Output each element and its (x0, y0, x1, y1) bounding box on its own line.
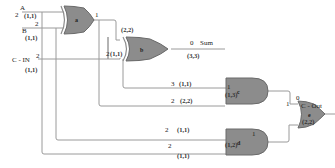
gate-a-out-coord: (2,2) (121, 26, 133, 34)
gate-c-in1-fanout: 3 (171, 80, 175, 88)
gate-d-out-coord: (1,2) (225, 141, 237, 149)
input-cin-coord: (1,1) (25, 66, 37, 74)
gate-c-in2-coord: (2,2) (180, 97, 192, 105)
gate-c-in1-coord: (1,1) (179, 80, 191, 88)
gate-a-out-fanout: 1 (95, 11, 99, 19)
cout-label: C - Out (301, 102, 322, 110)
cout-value: 0 (296, 94, 300, 102)
sum-value: 0 (190, 39, 194, 47)
gate-c-out-fanout: 1 (227, 83, 231, 91)
wire-a-out (92, 20, 120, 40)
gate-b-xor[interactable]: b (123, 37, 168, 61)
gate-c-out-coord: (1,3) (225, 91, 237, 99)
wire-cin-to-b (108, 58, 120, 59)
input-a-fanout: 2 (15, 11, 19, 19)
gate-a-label: a (75, 17, 78, 23)
sum-label: Sum (200, 39, 213, 47)
input-a-coord: (1,1) (24, 12, 36, 20)
gate-e-in1-fanout: 1 (286, 100, 290, 108)
input-cin-fanout: 2 (36, 52, 40, 60)
input-b-coord: (1,1) (25, 34, 37, 42)
input-cin-label: C - IN (12, 56, 30, 64)
gate-b-out-coord: (3,3) (187, 52, 199, 60)
gate-e-out-coord: (2,2) (302, 118, 314, 126)
gate-b-in-coord: (1,1) (110, 50, 122, 58)
gate-a-xor[interactable]: a (61, 6, 94, 34)
gate-d-in2-coord: (1,1) (177, 152, 189, 160)
gate-d-in1-fanout: 2 (165, 126, 169, 134)
wire-d-to-e (268, 125, 298, 142)
gate-d-in1-coord: (1,1) (177, 126, 189, 134)
wire-c-to-e (268, 91, 298, 104)
input-b-fanout: 2 (35, 20, 39, 28)
circuit-diagram: a b c d e A 2 (1,1) B 2 (1,1) C - IN 2 (… (0, 0, 335, 168)
input-a-label: A (20, 4, 25, 12)
labels: A 2 (1,1) B 2 (1,1) C - IN 2 (1,1) 1 (2,… (12, 4, 322, 160)
gate-e-in2-fanout: 1 (252, 130, 256, 138)
wire-cin-to-c (123, 59, 226, 88)
wire-a-out-to-c (99, 20, 225, 106)
wire-cin (38, 37, 108, 59)
gate-c-in2-fanout: 2 (171, 97, 175, 105)
gate-d-in2-fanout: 2 (168, 142, 172, 150)
